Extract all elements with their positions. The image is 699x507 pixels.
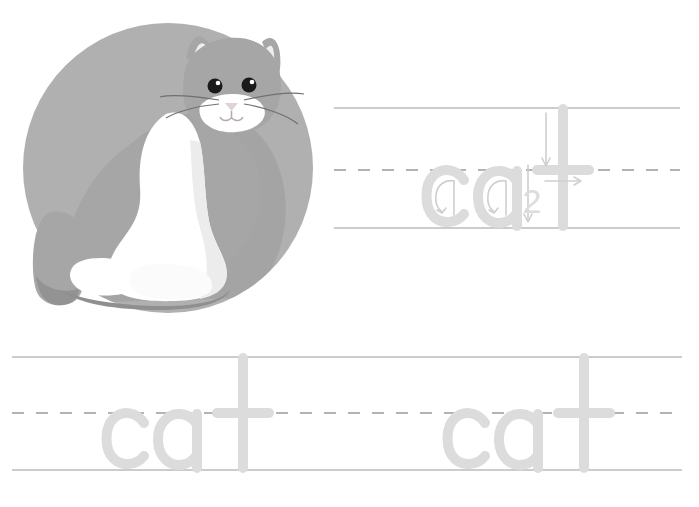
t-stem-arrow [542,113,550,166]
practice-row-top: 2 [330,95,686,240]
c-stroke-arrow [436,181,454,215]
trace-word-cat [427,109,590,226]
cat-eye-right-highlight [250,80,255,85]
cat-eye-left [208,79,223,94]
trace-word-cat-left [107,358,270,468]
trace-word-cat-right [448,358,611,468]
cat-illustration [14,18,324,318]
worksheet-page: 2 [0,0,699,507]
trace-letter-c [427,170,465,222]
cat-eye-right [242,78,257,93]
trace-letter-c [107,413,145,464]
practice-row-bottom [8,345,688,485]
stroke-number-2: 2 [523,182,542,220]
trace-letter-a-bowl [499,414,537,465]
trace-letter-c [448,413,486,464]
trace-letter-a-bowl [478,171,516,223]
cat-eye-left-highlight [216,81,221,86]
trace-letter-a-bowl [158,414,196,465]
a-bowl-arrow [488,181,506,215]
